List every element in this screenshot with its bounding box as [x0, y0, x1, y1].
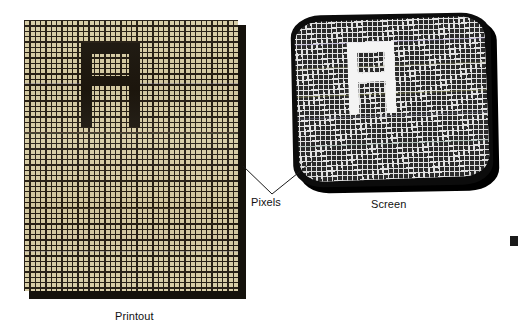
pixels-label: Pixels: [251, 196, 281, 208]
printout-scan-line-4: [24, 251, 238, 252]
screen-figure: [292, 14, 500, 194]
printout-figure: [24, 20, 246, 299]
screen-face: [294, 15, 490, 182]
printout-scan-line-3: [24, 208, 238, 209]
screen-label: Screen: [371, 198, 406, 210]
screen-bezel: [290, 12, 493, 188]
printout-label: Printout: [115, 310, 154, 322]
printout-scan-line-2: [24, 133, 238, 134]
printout-paper: [24, 20, 238, 291]
printout-glyph-seg-middle-bar: [81, 76, 140, 86]
page-corner-mark: [510, 236, 518, 246]
screen-glyph-seg-middle-bar: [348, 72, 395, 83]
